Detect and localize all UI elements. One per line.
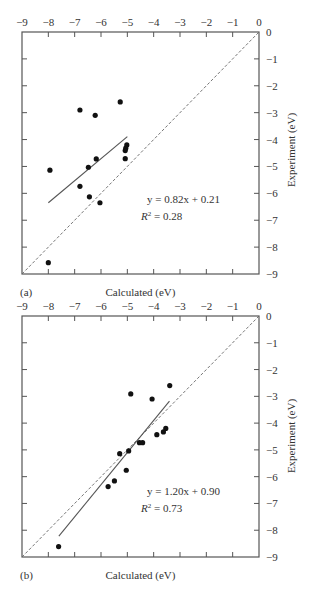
data-point	[123, 156, 128, 161]
data-point	[117, 451, 122, 456]
panel-a: −9−8−7−6−5−4−3−2−100−1−2−3−4−5−6−7−8−9y …	[16, 16, 298, 299]
regression-line	[59, 401, 170, 536]
x-tick-label: −1	[227, 16, 239, 28]
data-point	[86, 165, 91, 170]
x-tick-label: −5	[121, 300, 133, 312]
y-tick-label: −5	[266, 160, 278, 172]
y-tick-label: −7	[266, 214, 278, 226]
panel-label: (a)	[20, 286, 33, 299]
fit-equation: y = 0.82x + 0.21	[147, 193, 220, 205]
x-tick-label: −4	[148, 300, 160, 312]
data-point	[87, 194, 92, 199]
chart-figure: −9−8−7−6−5−4−3−2−100−1−2−3−4−5−6−7−8−9y …	[0, 0, 312, 593]
y-tick-label: −1	[266, 53, 278, 65]
y-tick-label: −6	[266, 187, 278, 199]
x-tick-label: −9	[16, 16, 28, 28]
y-tick-label: −4	[266, 134, 278, 146]
y-tick-label: −1	[266, 337, 278, 349]
x-tick-label: −8	[42, 16, 54, 28]
x-tick-label: −4	[148, 16, 160, 28]
x-tick-label: 0	[256, 16, 262, 28]
x-tick-label: −6	[95, 300, 107, 312]
y-tick-label: −3	[266, 390, 278, 402]
data-point	[128, 391, 133, 396]
y-tick-label: −7	[266, 497, 278, 509]
y-tick-label: −2	[266, 364, 278, 376]
x-axis-title: Calculated (eV)	[106, 286, 176, 299]
y-tick-label: −6	[266, 471, 278, 483]
data-point	[93, 113, 98, 118]
x-tick-label: −2	[200, 16, 212, 28]
x-axis-title: Calculated (eV)	[106, 569, 176, 582]
x-tick-label: 0	[256, 300, 262, 312]
data-point	[154, 432, 159, 437]
x-tick-label: −1	[227, 300, 239, 312]
x-tick-label: −8	[42, 300, 54, 312]
y-axis-title: Experiment (eV)	[285, 113, 298, 188]
x-tick-label: −3	[174, 300, 186, 312]
y-tick-label: −9	[266, 551, 278, 563]
data-point	[123, 148, 128, 153]
x-tick-label: −2	[200, 300, 212, 312]
x-tick-label: −9	[16, 300, 28, 312]
data-point	[56, 544, 61, 549]
data-point	[77, 184, 82, 189]
x-tick-label: −6	[95, 16, 107, 28]
y-tick-label: −2	[266, 80, 278, 92]
data-point	[126, 448, 131, 453]
data-point	[94, 156, 99, 161]
r-squared-value: = 0.73	[151, 502, 182, 514]
data-point	[97, 200, 102, 205]
y-tick-label: −9	[266, 268, 278, 280]
r-squared-label: R2 = 0.28	[140, 210, 183, 222]
y-tick-label: −8	[266, 241, 278, 253]
x-tick-label: −3	[174, 16, 186, 28]
y-tick-label: −5	[266, 444, 278, 456]
data-point	[106, 484, 111, 489]
r-squared-label: R2 = 0.73	[140, 502, 183, 514]
data-point	[47, 168, 52, 173]
data-point	[112, 478, 117, 483]
fit-equation: y = 1.20x + 0.90	[147, 485, 220, 497]
y-axis-title: Experiment (eV)	[285, 399, 298, 474]
y-tick-label: −8	[266, 524, 278, 536]
panel-label: (b)	[20, 569, 33, 582]
x-tick-label: −5	[121, 16, 133, 28]
data-point	[124, 468, 129, 473]
data-point	[46, 260, 51, 265]
x-tick-label: −7	[69, 300, 81, 312]
y-tick-label: −4	[266, 417, 278, 429]
y-tick-label: −3	[266, 107, 278, 119]
panel-b: −9−8−7−6−5−4−3−2−100−1−2−3−4−5−6−7−8−9y …	[16, 300, 298, 582]
data-point	[161, 429, 166, 434]
identity-line	[22, 32, 259, 274]
y-tick-label: 0	[266, 310, 272, 322]
data-point	[149, 396, 154, 401]
r-squared-value: = 0.28	[151, 210, 182, 222]
x-tick-label: −7	[69, 16, 81, 28]
data-point	[118, 99, 123, 104]
y-tick-label: 0	[266, 26, 272, 38]
data-point	[167, 383, 172, 388]
data-point	[140, 440, 145, 445]
data-point	[77, 107, 82, 112]
